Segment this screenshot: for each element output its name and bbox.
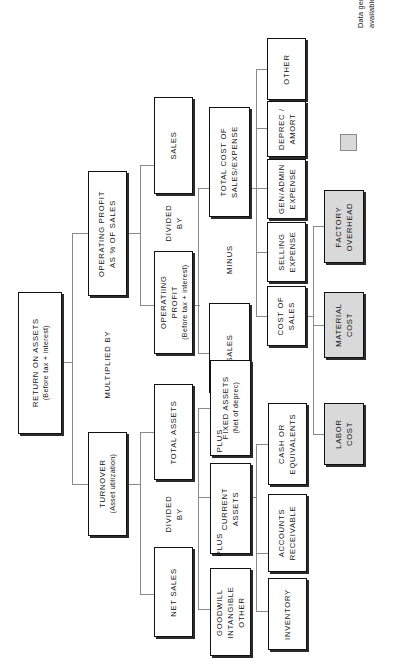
node-label: DEPREC / AMORT (276, 108, 298, 150)
operator-divided-by-assets: DIVIDED BY (154, 487, 193, 540)
connector (256, 128, 267, 129)
diagram-canvas: RETURN ON ASSETS (Before tax + interest)… (0, 0, 395, 672)
node-label: LABOR COST (333, 419, 355, 449)
operator-plus-current: PLUS (210, 524, 229, 564)
node-cost-of-sales[interactable]: COST OF SALES (267, 286, 306, 346)
connector (313, 226, 324, 227)
node-label: GEN/ADMIN EXPENSE (276, 164, 298, 214)
node-label: TURNOVER (Asset utilization) (97, 454, 118, 514)
connector (198, 188, 199, 306)
node-label: COST OF SALES (276, 297, 298, 336)
connector (198, 432, 199, 609)
node-operating-profit-pct[interactable]: OPERATING PROFIT AS % OF SALES (88, 171, 127, 296)
connector (198, 353, 209, 354)
node-labor-cost[interactable]: LABOR COST (324, 403, 364, 465)
operator-label: MINUS (224, 245, 235, 274)
node-other[interactable]: OTHER (267, 38, 306, 100)
connector (140, 484, 141, 594)
connector (140, 432, 154, 433)
connector (256, 69, 267, 70)
legend-text: Data generally not available in 10-K rep… (356, 0, 378, 28)
operator-label: PLUS (214, 532, 225, 555)
node-accounts-receivable[interactable]: ACCOUNTS RECEIVABLE (268, 494, 307, 572)
connector (198, 408, 199, 433)
node-label: CASH OR EQUIVALENTS (277, 414, 299, 475)
node-material-cost[interactable]: MATERIAL COST (324, 292, 364, 358)
node-label: RETURN ON ASSETS (Before tax + interest) (29, 319, 50, 408)
node-label: SALES (224, 334, 235, 362)
operator-label: DIVIDED BY (162, 495, 184, 532)
connector (72, 233, 88, 234)
connector (198, 609, 210, 610)
connector (198, 188, 209, 189)
connector (127, 484, 141, 485)
node-label: FACTORY OVERHEAD (333, 202, 355, 251)
legend-swatch (340, 134, 357, 151)
connector (256, 188, 267, 189)
operator-plus-fixed: PLUS (210, 420, 229, 460)
node-sales-1[interactable]: SALES (154, 97, 193, 194)
operator-label: MULTIPLIED BY (102, 330, 113, 398)
operator-label: DIVIDED BY (162, 204, 184, 241)
connector (198, 305, 199, 353)
node-label: OTHER (281, 54, 292, 84)
node-label: SALES (168, 131, 179, 159)
connector (72, 484, 88, 485)
connector (313, 316, 314, 434)
node-total-cost-of-sales-expense[interactable]: TOTAL COST OF SALES/EXPENSE (209, 107, 250, 217)
node-cash-or-equivalents[interactable]: CASH OR EQUIVALENTS (268, 403, 307, 485)
node-turnover[interactable]: TURNOVER (Asset utilization) (88, 432, 127, 536)
node-label: NET SALES (168, 568, 179, 616)
connector (256, 497, 257, 611)
connector (313, 325, 324, 326)
connector (127, 233, 141, 234)
node-total-assets[interactable]: TOTAL ASSETS (154, 384, 193, 480)
node-label: INVENTORY (282, 589, 293, 640)
connector (256, 444, 257, 498)
node-deprec-amort[interactable]: DEPREC / AMORT (267, 101, 306, 157)
connector (140, 233, 141, 305)
legend: Data generally not available in 10-K rep… (330, 28, 390, 158)
connector (256, 553, 268, 554)
node-operating-profit[interactable]: OPERATIING PROFIT (Before tax + interest… (154, 251, 193, 354)
connector (198, 408, 210, 409)
connector (256, 316, 267, 317)
connector (256, 69, 257, 189)
connector (256, 252, 267, 253)
node-label: ACCOUNTS RECEIVABLE (277, 506, 299, 561)
connector (72, 362, 73, 484)
connector (72, 233, 73, 363)
connector (313, 434, 324, 435)
node-label: SELLING EXPENSE (276, 231, 298, 272)
node-selling-expense[interactable]: SELLING EXPENSE (267, 222, 306, 282)
connector (140, 165, 154, 166)
operator-label: PLUS (214, 428, 225, 451)
connector (140, 432, 141, 485)
node-label: TOTAL ASSETS (168, 400, 179, 464)
operator-divided-by-profit: DIVIDED BY (154, 201, 193, 245)
connector (198, 497, 210, 498)
node-factory-overhead[interactable]: FACTORY OVERHEAD (324, 190, 364, 263)
node-inventory[interactable]: INVENTORY (268, 578, 307, 650)
node-label: TOTAL COST OF SALES/EXPENSE (219, 126, 241, 198)
node-label: OPERATIING PROFIT (Before tax + interest… (157, 265, 189, 340)
node-label: MATERIAL COST (333, 303, 355, 346)
node-gen-admin-expense[interactable]: GEN/ADMIN EXPENSE (267, 159, 306, 219)
connector (140, 165, 141, 234)
connector (256, 444, 268, 445)
connector (256, 611, 268, 612)
node-net-sales[interactable]: NET SALES (154, 547, 193, 637)
operator-minus: MINUS (209, 224, 250, 295)
node-label: OPERATING PROFIT AS % OF SALES (97, 190, 119, 276)
node-return-on-assets[interactable]: RETURN ON ASSETS (Before tax + interest) (18, 292, 62, 434)
connector (140, 594, 154, 595)
connector (140, 305, 154, 306)
node-label: GOODWILL INTANGIBLE OTHER (214, 586, 247, 638)
node-goodwill-intangible-other[interactable]: GOODWILL INTANGIBLE OTHER (210, 568, 251, 656)
connector (313, 226, 314, 317)
operator-multiplied-by: MULTIPLIED BY (88, 308, 127, 420)
